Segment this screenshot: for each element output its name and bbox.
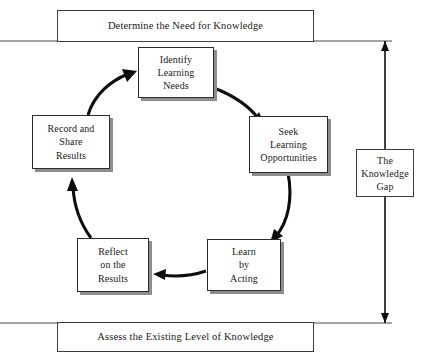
- node-learn-by-acting-label: Learn by Acting: [230, 245, 258, 285]
- arrow-identify-to-seek: [214, 88, 258, 118]
- node-reflect-on-the-results: Reflect on the Results: [77, 238, 149, 292]
- arrow-reflect-to-record: [73, 187, 91, 238]
- node-record-line-2: Share: [48, 135, 95, 148]
- knowledge-gap-label-line-3: Gap: [361, 180, 408, 193]
- diagram-canvas: Determine the Need for Knowledge Assess …: [0, 0, 427, 359]
- node-reflect-on-the-results-label: Reflect on the Results: [98, 245, 128, 285]
- knowledge-gap-arrow-head-up: [381, 41, 389, 51]
- node-seek-learning-opportunities-label: Seek Learning Opportunities: [260, 125, 316, 165]
- node-seek-learning-opportunities: Seek Learning Opportunities: [249, 116, 328, 173]
- arrow-record-to-identify: [88, 74, 128, 115]
- node-seek-line-2: Learning: [260, 138, 316, 151]
- node-reflect-line-1: Reflect: [98, 245, 128, 258]
- banner-determine-need-label: Determine the Need for Knowledge: [108, 19, 263, 32]
- banner-assess-existing: Assess the Existing Level of Knowledge: [57, 322, 314, 352]
- knowledge-gap-box: The Knowledge Gap: [356, 149, 414, 197]
- knowledge-gap-arrow-head-down: [381, 313, 389, 323]
- node-identify-line-1: Identify: [158, 53, 195, 66]
- banner-determine-need: Determine the Need for Knowledge: [57, 10, 314, 42]
- node-record-line-1: Record and: [48, 122, 95, 135]
- node-identify-line-2: Learning: [158, 66, 195, 79]
- banner-assess-existing-label: Assess the Existing Level of Knowledge: [97, 330, 273, 343]
- node-record-line-3: Results: [48, 149, 95, 162]
- knowledge-gap-label-line-2: Knowledge: [361, 167, 408, 180]
- node-learn-line-1: Learn: [230, 245, 258, 258]
- node-reflect-line-2: on the: [98, 258, 128, 271]
- node-reflect-line-3: Results: [98, 272, 128, 285]
- arrow-seek-to-learn: [276, 173, 290, 236]
- knowledge-gap-label-line-1: The: [361, 154, 408, 167]
- node-identify-line-3: Needs: [158, 79, 195, 92]
- node-learn-by-acting: Learn by Acting: [207, 239, 281, 291]
- node-seek-line-1: Seek: [260, 125, 316, 138]
- node-learn-line-2: by: [230, 258, 258, 271]
- node-record-and-share-results: Record and Share Results: [32, 115, 110, 169]
- node-seek-line-3: Opportunities: [260, 151, 316, 164]
- knowledge-gap-label: The Knowledge Gap: [361, 154, 408, 193]
- node-learn-line-3: Acting: [230, 272, 258, 285]
- arrow-learn-to-reflect: [162, 271, 206, 276]
- node-identify-learning-needs-label: Identify Learning Needs: [158, 53, 195, 93]
- arrow-reflect-to-record-head: [67, 177, 78, 191]
- node-record-and-share-results-label: Record and Share Results: [48, 122, 95, 162]
- arrow-learn-to-reflect-head: [153, 269, 166, 280]
- node-identify-learning-needs: Identify Learning Needs: [138, 47, 214, 98]
